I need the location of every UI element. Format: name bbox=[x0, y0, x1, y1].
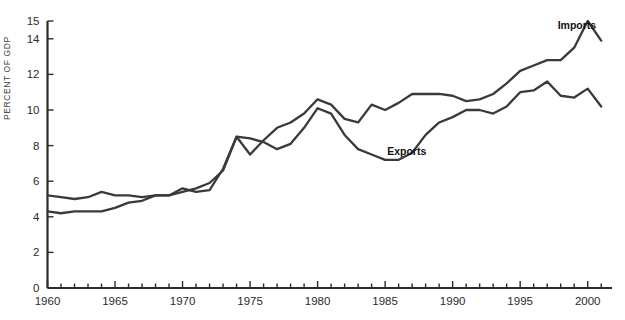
y-axis-ticks: 0246810121415 bbox=[27, 15, 54, 294]
series-annotations: ImportsExports bbox=[387, 19, 596, 156]
y-tick-label: 0 bbox=[33, 282, 39, 294]
y-tick-label: 14 bbox=[27, 33, 40, 45]
series-line-exports bbox=[48, 82, 602, 199]
y-tick-label: 12 bbox=[27, 68, 40, 80]
x-tick-label: 1980 bbox=[305, 295, 331, 307]
line-chart: 0246810121415 19601965197019751980198519… bbox=[0, 0, 625, 320]
series-label-imports: Imports bbox=[558, 19, 597, 31]
y-tick-label: 6 bbox=[33, 175, 39, 187]
x-axis-ticks: 196019651970197519801985199019952000 bbox=[35, 281, 601, 307]
x-tick-label: 2000 bbox=[575, 295, 601, 307]
y-tick-label: 15 bbox=[27, 15, 40, 27]
x-tick-label: 1985 bbox=[372, 295, 398, 307]
x-tick-label: 1995 bbox=[507, 295, 533, 307]
series-line-imports bbox=[48, 21, 602, 213]
x-tick-label: 1975 bbox=[237, 295, 263, 307]
y-tick-label: 4 bbox=[33, 211, 40, 223]
y-tick-label: 10 bbox=[27, 104, 40, 116]
y-tick-label: 8 bbox=[33, 140, 39, 152]
data-series-group bbox=[48, 21, 602, 213]
series-label-exports: Exports bbox=[387, 145, 426, 157]
x-tick-label: 1965 bbox=[102, 295, 128, 307]
chart-container: PERCENT OF GDP 0246810121415 19601965197… bbox=[0, 0, 625, 320]
y-tick-label: 2 bbox=[33, 246, 39, 258]
x-tick-label: 1960 bbox=[35, 295, 61, 307]
x-tick-label: 1990 bbox=[440, 295, 466, 307]
x-tick-label: 1970 bbox=[170, 295, 196, 307]
